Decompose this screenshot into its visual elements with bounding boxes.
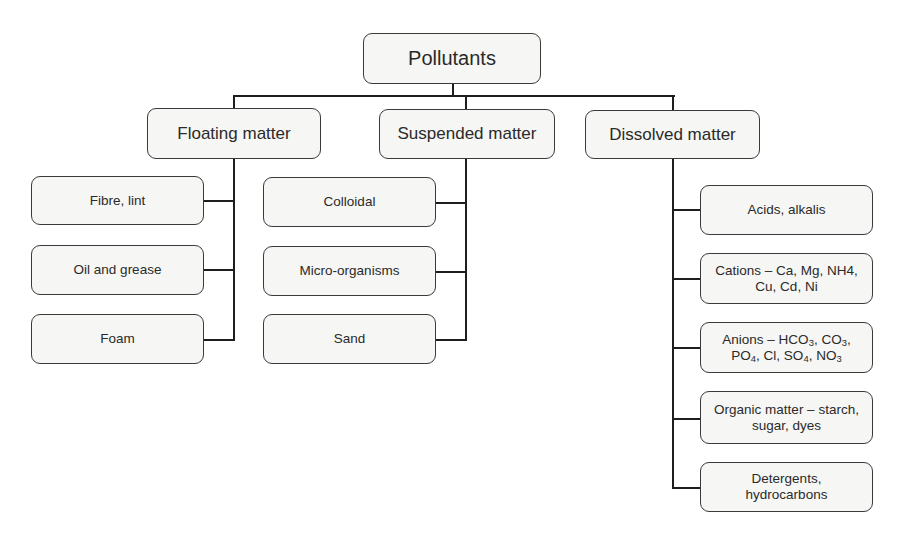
subscript: 3	[836, 353, 841, 364]
node-colloidal: Colloidal	[263, 177, 436, 227]
node-label-line2: hydrocarbons	[746, 487, 828, 503]
node-label-line1: Detergents,	[746, 471, 828, 487]
node-dissolved-matter: Dissolved matter	[585, 110, 760, 159]
node-micro-organisms: Micro-organisms	[263, 246, 436, 296]
connector-suspended-up	[465, 95, 467, 109]
node-label: Oil and grease	[74, 262, 162, 278]
connector-floating-up	[233, 95, 235, 109]
connector-suspended-trunk	[465, 158, 467, 341]
connector-sand	[436, 339, 467, 341]
connector-anions	[672, 347, 701, 349]
node-label-line2: Cu, Cd, Ni	[715, 279, 858, 295]
text-part: ,	[847, 332, 851, 347]
text-part: , CO	[814, 332, 842, 347]
node-label: Fibre, lint	[90, 193, 146, 209]
connector-dissolved-trunk	[672, 158, 674, 489]
connector-micro	[436, 271, 467, 273]
connector-floating-trunk	[233, 158, 235, 341]
connector-colloidal	[436, 202, 467, 204]
node-label: Suspended matter	[398, 124, 537, 144]
connector-dissolved-up	[672, 95, 674, 110]
node-label-line2: PO4, Cl, SO4, NO3	[722, 348, 850, 364]
node-acids-alkalis: Acids, alkalis	[700, 185, 873, 235]
node-fibre-lint: Fibre, lint	[31, 176, 204, 225]
node-organic-matter: Organic matter – starch, sugar, dyes	[700, 391, 873, 444]
text-part: , NO	[809, 348, 837, 363]
node-label: Acids, alkalis	[747, 202, 825, 218]
node-label: Dissolved matter	[609, 125, 736, 145]
node-cations: Cations – Ca, Mg, NH4, Cu, Cd, Ni	[700, 253, 873, 304]
text-part: , Cl, SO	[756, 348, 803, 363]
connector-acids	[672, 209, 701, 211]
node-pollutants: Pollutants	[363, 33, 541, 84]
node-label: Floating matter	[177, 124, 290, 144]
text-part: Anions – HCO	[722, 332, 808, 347]
connector-cations	[672, 278, 701, 280]
node-label: Colloidal	[324, 194, 376, 210]
connector-oil	[204, 269, 235, 271]
node-label: Pollutants	[408, 47, 496, 70]
connector-main-horizontal	[233, 95, 675, 97]
node-foam: Foam	[31, 314, 204, 364]
node-label-line1: Organic matter – starch,	[714, 402, 859, 418]
connector-foam	[204, 339, 235, 341]
connector-organic	[672, 418, 701, 420]
node-label: Sand	[334, 331, 366, 347]
text-part: PO	[731, 348, 751, 363]
connector-fibre	[204, 200, 235, 202]
node-label: Micro-organisms	[300, 263, 400, 279]
connector-detergents	[672, 487, 701, 489]
node-oil-grease: Oil and grease	[31, 245, 204, 295]
node-detergents: Detergents, hydrocarbons	[700, 462, 873, 512]
node-label-line1: Cations – Ca, Mg, NH4,	[715, 263, 858, 279]
node-sand: Sand	[263, 314, 436, 364]
node-label: Foam	[100, 331, 135, 347]
node-suspended-matter: Suspended matter	[379, 109, 555, 159]
node-floating-matter: Floating matter	[147, 108, 321, 159]
node-anions: Anions – HCO3, CO3, PO4, Cl, SO4, NO3	[700, 322, 873, 373]
node-label-line2: sugar, dyes	[714, 418, 859, 434]
node-label-line1: Anions – HCO3, CO3,	[722, 332, 850, 348]
